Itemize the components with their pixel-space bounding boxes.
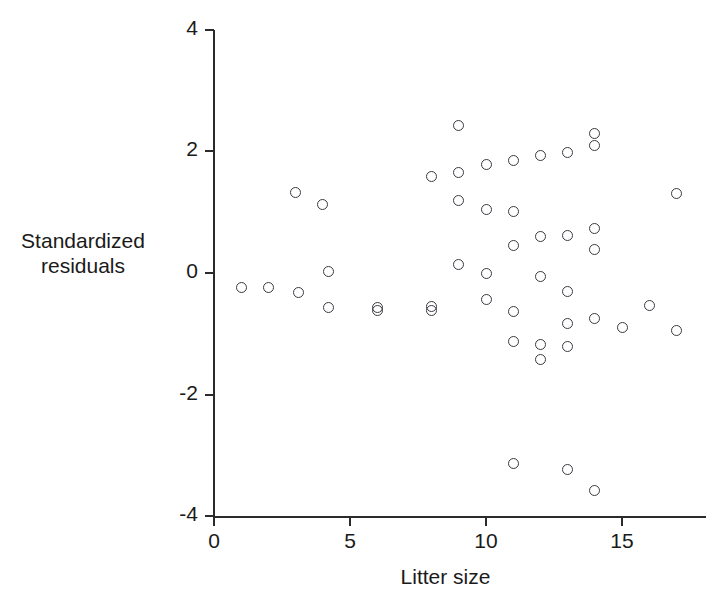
data-point xyxy=(535,150,546,161)
data-point xyxy=(453,120,464,131)
data-point xyxy=(453,259,464,270)
y-tick-label--2: -2 xyxy=(148,381,198,405)
y-tick-4 xyxy=(205,29,214,31)
scatter-plot-figure: 051015 -4-2024 Standardized residuals Li… xyxy=(0,0,711,611)
x-tick-label-15: 15 xyxy=(592,529,652,553)
data-point xyxy=(562,341,573,352)
data-point xyxy=(426,171,437,182)
x-axis-label-text: Litter size xyxy=(401,565,491,588)
data-point xyxy=(481,159,492,170)
x-tick-5 xyxy=(349,517,351,526)
x-tick-label-0: 0 xyxy=(184,529,244,553)
y-tick--4 xyxy=(205,515,214,517)
data-point xyxy=(589,313,600,324)
data-point xyxy=(508,155,519,166)
y-tick-0 xyxy=(205,272,214,274)
data-point xyxy=(481,204,492,215)
data-point xyxy=(508,306,519,317)
data-point xyxy=(535,354,546,365)
y-axis-label-line-2: residuals xyxy=(8,253,158,278)
data-point xyxy=(589,244,600,255)
data-point xyxy=(323,302,334,313)
y-tick-label-2: 2 xyxy=(148,137,198,161)
data-point xyxy=(481,268,492,279)
data-point xyxy=(453,167,464,178)
data-point xyxy=(671,188,682,199)
data-point xyxy=(481,294,492,305)
data-point xyxy=(644,300,655,311)
data-point xyxy=(535,231,546,242)
x-tick-label-5: 5 xyxy=(320,529,380,553)
y-tick--2 xyxy=(205,394,214,396)
data-point xyxy=(562,286,573,297)
data-point xyxy=(589,140,600,151)
data-point xyxy=(508,240,519,251)
data-point xyxy=(508,458,519,469)
data-point xyxy=(562,464,573,475)
data-point xyxy=(293,287,304,298)
x-tick-10 xyxy=(485,517,487,526)
data-point xyxy=(372,305,383,316)
data-point xyxy=(589,223,600,234)
data-point xyxy=(589,485,600,496)
y-tick-label-4: 4 xyxy=(148,16,198,40)
data-point xyxy=(589,128,600,139)
data-point xyxy=(426,305,437,316)
data-point xyxy=(671,325,682,336)
data-point xyxy=(508,206,519,217)
x-axis-label: Litter size xyxy=(0,565,711,589)
data-point xyxy=(562,147,573,158)
data-point xyxy=(535,271,546,282)
y-tick-2 xyxy=(205,150,214,152)
x-tick-15 xyxy=(621,517,623,526)
data-point xyxy=(535,339,546,350)
data-point xyxy=(562,230,573,241)
data-point xyxy=(290,187,301,198)
x-axis-line xyxy=(214,516,706,518)
data-point xyxy=(453,195,464,206)
data-point xyxy=(263,282,274,293)
data-point xyxy=(617,322,628,333)
data-point xyxy=(317,199,328,210)
y-axis-label-line-1: Standardized xyxy=(8,228,158,253)
y-axis-label: Standardized residuals xyxy=(8,228,158,278)
x-tick-label-10: 10 xyxy=(456,529,516,553)
y-tick-label--4: -4 xyxy=(148,502,198,526)
data-point xyxy=(236,282,247,293)
data-point xyxy=(323,266,334,277)
data-point xyxy=(562,318,573,329)
data-point xyxy=(508,336,519,347)
x-tick-0 xyxy=(213,517,215,526)
y-axis-line xyxy=(213,30,215,522)
